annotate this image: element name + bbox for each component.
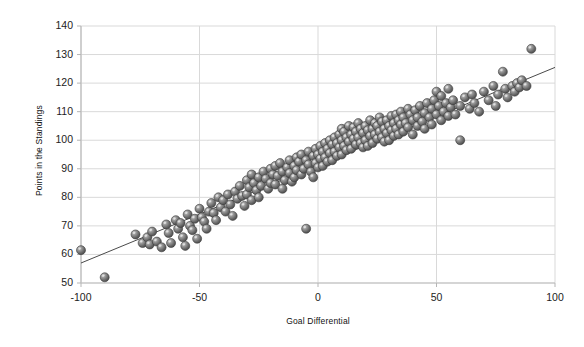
scatter-chart: Points in the Standings Goal Differentia… [0, 0, 584, 347]
data-point [468, 90, 477, 99]
data-point [100, 273, 109, 282]
data-point [193, 234, 202, 243]
data-point [167, 239, 176, 248]
data-point [212, 216, 221, 225]
data-point [475, 107, 484, 116]
data-point [527, 44, 536, 53]
data-point [491, 101, 500, 110]
data-point [178, 233, 187, 242]
data-point [470, 99, 479, 108]
data-point [456, 136, 465, 145]
data-point [479, 87, 488, 96]
data-point [444, 84, 453, 93]
data-point [164, 229, 173, 238]
data-point [148, 227, 157, 236]
data-points [77, 44, 536, 281]
data-point [157, 243, 166, 252]
data-point [202, 224, 211, 233]
data-point [195, 204, 204, 213]
data-point [498, 67, 507, 76]
data-point [77, 246, 86, 255]
data-point [451, 110, 460, 119]
data-point [228, 211, 237, 220]
data-point [181, 241, 190, 250]
data-point [427, 120, 436, 129]
data-point [162, 220, 171, 229]
data-point [302, 224, 311, 233]
data-point [456, 101, 465, 110]
data-point [254, 193, 263, 202]
data-point [489, 81, 498, 90]
data-point [131, 230, 140, 239]
plot-area [0, 0, 584, 347]
data-point [278, 184, 287, 193]
data-point [188, 226, 197, 235]
data-point [522, 81, 531, 90]
data-point [176, 219, 185, 228]
data-point [309, 173, 318, 182]
data-point [408, 130, 417, 139]
